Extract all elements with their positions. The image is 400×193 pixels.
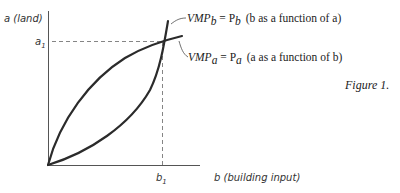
vmp-a-leader xyxy=(179,41,188,57)
vmp-a-label: VMPa = Pa(a as a function of b) xyxy=(188,51,342,66)
figure-caption: Figure 1. xyxy=(344,78,389,92)
figure-diagram: a (land) a1 b1 b (building input) VMPb =… xyxy=(0,0,400,193)
curve-vmp-b xyxy=(48,21,168,165)
a1-tick-label: a1 xyxy=(35,36,46,50)
x-axis-label: b (building input) xyxy=(214,172,300,183)
y-axis-label: a (land) xyxy=(4,13,43,24)
b1-tick-label: b1 xyxy=(156,172,167,186)
vmp-b-label: VMPb = Pb(b as a function of a) xyxy=(187,12,341,27)
vmp-b-leader xyxy=(171,18,186,24)
